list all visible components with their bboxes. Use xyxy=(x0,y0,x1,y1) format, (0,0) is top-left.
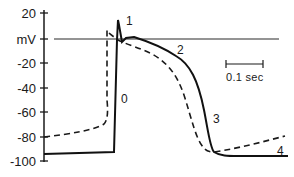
y-tick-label-20: 20 xyxy=(2,7,36,20)
y-tick-label-neg100: -100 xyxy=(2,155,36,168)
scale-bar-label: 0.1 sec xyxy=(226,72,264,83)
action-potential-diagram: 20 mV -20 -40 -60 -80 -100 0 1 2 3 4 0.1… xyxy=(0,0,294,177)
phase-1-label: 1 xyxy=(126,15,133,27)
scale-bar xyxy=(226,60,263,68)
y-tick-label-neg80: -80 xyxy=(2,131,36,144)
y-axis-unit-label: mV xyxy=(2,33,36,46)
phase-0-label: 0 xyxy=(121,93,128,105)
y-tick-label-neg20: -20 xyxy=(2,57,36,70)
phase-4-label: 4 xyxy=(277,145,284,157)
y-tick-label-neg60: -60 xyxy=(2,106,36,119)
plot-area xyxy=(0,0,294,177)
phase-2-label: 2 xyxy=(177,44,184,56)
phase-3-label: 3 xyxy=(213,113,220,125)
y-tick-label-neg40: -40 xyxy=(2,82,36,95)
solid-action-potential-curve xyxy=(44,20,288,156)
